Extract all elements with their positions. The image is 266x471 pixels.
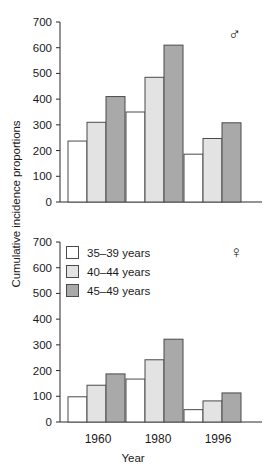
male-symbol: ♂ — [228, 26, 241, 43]
bar-bottom-1960-2 — [106, 374, 125, 422]
svg-text:200: 200 — [33, 365, 52, 377]
bar-top-1996-2 — [222, 123, 241, 202]
bar-top-1980-2 — [164, 45, 183, 202]
svg-text:400: 400 — [33, 313, 52, 325]
svg-text:500: 500 — [33, 287, 52, 299]
bar-top-1960-2 — [106, 97, 125, 202]
bar-bottom-1980-0 — [126, 379, 145, 422]
svg-text:600: 600 — [33, 42, 52, 54]
svg-text:400: 400 — [33, 93, 52, 105]
x-axis-tick-row: 1960 1980 1996 — [0, 432, 266, 448]
legend-label-40-44: 40–44 years — [87, 266, 150, 278]
x-tick-1980: 1980 — [128, 432, 188, 446]
svg-text:300: 300 — [33, 339, 52, 351]
legend-swatch-40-44 — [66, 265, 79, 278]
bar-bottom-1960-0 — [68, 397, 87, 422]
chart-figure: Cumulative incidence proportions 0100200… — [0, 0, 266, 471]
plot-area-male: 0100200300400500600700 — [0, 8, 266, 222]
bar-bottom-1960-1 — [87, 385, 106, 422]
svg-text:500: 500 — [33, 67, 52, 79]
legend-label-45-49: 45–49 years — [87, 285, 150, 297]
legend-swatch-45-49 — [66, 284, 79, 297]
female-symbol: ♀ — [230, 244, 243, 261]
chart-panel-male: 0100200300400500600700 ♂ — [0, 8, 266, 222]
svg-text:700: 700 — [33, 236, 52, 248]
legend-swatch-35-39 — [66, 246, 79, 259]
svg-text:100: 100 — [33, 170, 52, 182]
legend-item: 40–44 years — [66, 263, 186, 280]
svg-text:200: 200 — [33, 145, 52, 157]
svg-text:700: 700 — [33, 16, 52, 28]
bar-top-1960-1 — [87, 122, 106, 202]
bar-bottom-1980-2 — [164, 339, 183, 422]
legend-item: 45–49 years — [66, 282, 186, 299]
bar-bottom-1996-1 — [203, 401, 222, 422]
svg-text:0: 0 — [46, 196, 52, 208]
legend: 35–39 years 40–44 years 45–49 years — [66, 244, 186, 301]
svg-text:600: 600 — [33, 262, 52, 274]
bar-top-1996-1 — [203, 138, 222, 202]
bar-bottom-1980-1 — [145, 360, 164, 422]
svg-text:0: 0 — [46, 416, 52, 428]
x-tick-1996: 1996 — [188, 432, 248, 446]
x-tick-1960: 1960 — [68, 432, 128, 446]
legend-item: 35–39 years — [66, 244, 186, 261]
legend-label-35-39: 35–39 years — [87, 247, 150, 259]
bar-bottom-1996-2 — [222, 393, 241, 422]
svg-text:100: 100 — [33, 390, 52, 402]
bar-top-1960-0 — [68, 141, 87, 202]
bar-top-1996-0 — [184, 154, 203, 202]
bar-top-1980-1 — [145, 77, 164, 202]
bar-bottom-1996-0 — [184, 410, 203, 422]
x-axis-title: Year — [0, 452, 266, 464]
svg-text:300: 300 — [33, 119, 52, 131]
bar-top-1980-0 — [126, 112, 145, 202]
